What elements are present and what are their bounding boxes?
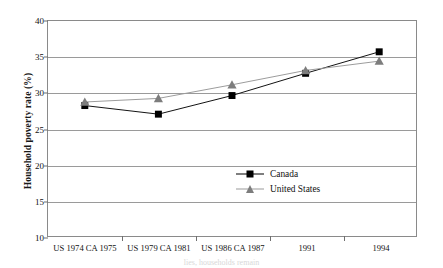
legend-item-canada: Canada	[236, 166, 360, 181]
x-tick-label: 1991	[298, 243, 315, 253]
y-tick-label: 10	[35, 233, 44, 243]
x-tick-mark	[270, 236, 271, 241]
x-tick-label: US 1986 CA 1987	[201, 243, 264, 253]
page-bleed-caption: lies, households remain	[0, 258, 443, 267]
x-tick-mark	[344, 236, 345, 241]
y-tick-label: 30	[35, 88, 44, 98]
y-tick-label: 35	[35, 52, 44, 62]
chart-legend: Canada United States	[236, 166, 360, 196]
data-point-marker	[229, 92, 236, 99]
legend-label-united-states: United States	[270, 184, 320, 194]
poverty-rate-line-chart: Household poverty rate (%) 1015202530354…	[0, 0, 443, 268]
y-tick-label: 15	[35, 197, 44, 207]
y-tick-mark	[44, 238, 48, 239]
triangle-marker-icon	[236, 183, 264, 195]
series-layer	[48, 21, 416, 236]
x-tick-mark	[122, 236, 123, 241]
data-point-marker	[376, 48, 383, 55]
data-point-marker	[375, 57, 384, 65]
x-tick-mark	[196, 236, 197, 241]
square-marker-icon	[236, 168, 264, 180]
legend-label-canada: Canada	[270, 169, 298, 179]
y-tick-label: 25	[35, 125, 44, 135]
x-tick-label: 1994	[372, 243, 389, 253]
legend-item-united-states: United States	[236, 181, 360, 196]
plot-area: 10152025303540 US 1974 CA 1975US 1979 CA…	[47, 20, 417, 237]
data-point-marker	[155, 111, 162, 118]
x-tick-label: US 1979 CA 1981	[127, 243, 190, 253]
y-tick-label: 40	[35, 16, 44, 26]
x-tick-label: US 1974 CA 1975	[53, 243, 116, 253]
y-tick-label: 20	[35, 161, 44, 171]
y-axis-title: Household poverty rate (%)	[23, 41, 33, 221]
